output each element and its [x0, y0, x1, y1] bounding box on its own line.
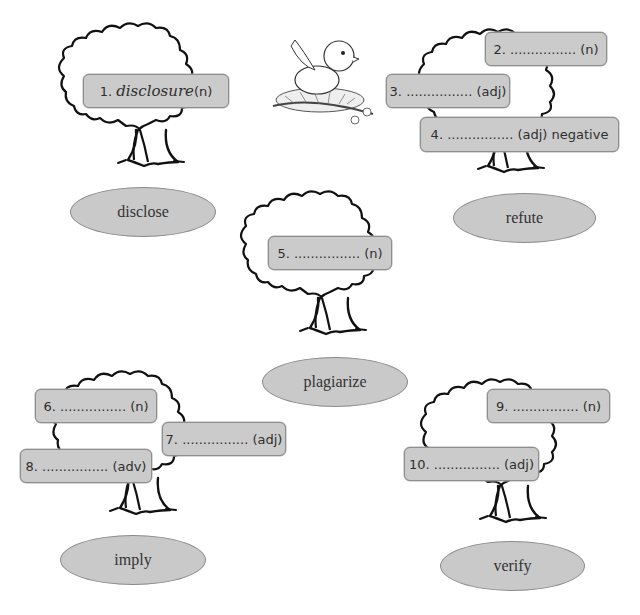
blank-number: 7.: [166, 432, 178, 447]
part-of-speech: (n): [580, 42, 598, 57]
part-of-speech: (adj): [476, 84, 506, 99]
root-word-oval: disclose: [70, 187, 216, 237]
part-of-speech: (n): [583, 399, 601, 414]
blank-dots: ................: [434, 457, 500, 472]
root-word-oval: refute: [453, 193, 596, 243]
answer-text: disclosure: [116, 82, 194, 100]
answer-box-1[interactable]: 1. disclosure(n): [83, 74, 229, 108]
root-word-oval: verify: [440, 541, 585, 591]
answer-box-4[interactable]: 4. ................ (adj) negative: [420, 117, 619, 152]
bird-nest-icon: [255, 28, 385, 128]
root-word-oval: plagiarize: [262, 357, 408, 407]
blank-number: 6.: [43, 399, 55, 414]
blank-number: 4.: [431, 127, 443, 142]
blank-dots: ................: [60, 399, 126, 414]
answer-box-10[interactable]: 10. ................ (adj): [404, 447, 539, 481]
part-of-speech: (adj) negative: [517, 127, 608, 142]
root-word-label: plagiarize: [303, 373, 366, 391]
root-word-label: disclose: [117, 203, 169, 221]
part-of-speech: (n): [130, 399, 148, 414]
blank-number: 1.: [100, 84, 112, 99]
answer-box-8[interactable]: 8. ................ (adv): [20, 449, 152, 483]
blank-dots: ................: [510, 42, 576, 57]
blank-number: 9.: [496, 399, 508, 414]
part-of-speech: (n): [194, 84, 212, 99]
answer-box-6[interactable]: 6. ................ (n): [35, 389, 157, 423]
blank-dots: ................: [182, 432, 248, 447]
root-word-label: imply: [114, 551, 151, 569]
answer-box-7[interactable]: 7. ................ (adj): [162, 422, 286, 456]
blank-number: 8.: [26, 459, 38, 474]
answer-box-2[interactable]: 2. ................ (n): [485, 32, 607, 66]
blank-dots: ................: [447, 127, 513, 142]
blank-dots: ................: [42, 459, 108, 474]
root-word-label: verify: [493, 557, 531, 575]
part-of-speech: (adv): [112, 459, 146, 474]
blank-number: 2.: [493, 42, 505, 57]
answer-box-9[interactable]: 9. ................ (n): [487, 389, 610, 423]
root-word-oval: imply: [60, 535, 206, 585]
answer-box-3[interactable]: 3. ................ (adj): [386, 74, 510, 108]
blank-dots: ................: [294, 246, 360, 261]
blank-dots: ................: [512, 399, 578, 414]
part-of-speech: (adj): [504, 457, 534, 472]
blank-number: 5.: [277, 246, 289, 261]
answer-box-5[interactable]: 5. ................ (n): [268, 236, 392, 270]
blank-number: 3.: [390, 84, 402, 99]
blank-number: 10.: [409, 457, 430, 472]
root-word-label: refute: [506, 209, 543, 227]
part-of-speech: (adj): [252, 432, 282, 447]
blank-dots: ................: [406, 84, 472, 99]
part-of-speech: (n): [364, 246, 382, 261]
